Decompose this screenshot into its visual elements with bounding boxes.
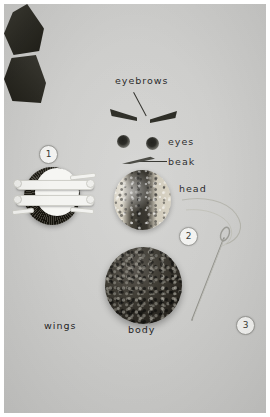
eyebrow-right-piece <box>150 110 177 123</box>
head-pompom-texture <box>114 170 171 230</box>
pompom-maker-arm-bottom <box>16 195 94 206</box>
label-body: body <box>128 325 156 335</box>
badge-2[interactable]: 2 <box>179 227 198 246</box>
needle-shaft <box>192 238 224 320</box>
pompom-maker-tool <box>10 164 95 229</box>
needle-svg <box>180 194 260 324</box>
leader-line-eyebrows <box>133 92 147 116</box>
eye-left-piece <box>117 135 130 148</box>
photo-plate: eyebrows eyes beak head wings body <box>4 4 266 413</box>
pompom-maker-prong-left-bottom <box>12 208 34 215</box>
label-head: head <box>179 184 207 194</box>
label-beak: beak <box>168 157 195 167</box>
wing-left-piece <box>4 4 44 55</box>
pompom-maker-knob-left-bottom <box>13 195 22 204</box>
pompom-maker-knob-right-bottom <box>86 195 95 204</box>
label-eyebrows: eyebrows <box>115 76 169 86</box>
badge-3[interactable]: 3 <box>236 316 255 335</box>
eyebrow-left-piece <box>110 108 137 121</box>
label-wings: wings <box>44 321 76 331</box>
label-eyes: eyes <box>168 137 194 147</box>
pompom-maker-knob-right-top <box>86 179 95 188</box>
head-pompom <box>114 170 171 230</box>
badge-1[interactable]: 1 <box>39 145 58 164</box>
body-pompom-texture <box>105 247 182 324</box>
pompom-maker-arm-top <box>16 180 94 190</box>
needle-highlight <box>193 239 224 319</box>
wing-right-piece <box>4 55 46 105</box>
photo-frame: eyebrows eyes beak head wings body <box>0 0 270 417</box>
eye-right-piece <box>146 137 159 150</box>
pompom-maker-prong-right-bottom <box>70 207 94 214</box>
pompom-maker-knob-left-top <box>13 179 22 188</box>
body-pompom <box>105 247 182 324</box>
beak-piece <box>122 156 155 164</box>
needle-and-thread <box>180 194 260 324</box>
